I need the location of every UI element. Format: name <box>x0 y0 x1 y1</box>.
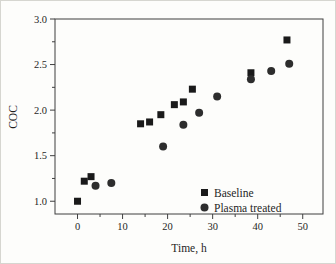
baseline-point <box>137 120 144 127</box>
plasma-treated-point <box>247 75 255 83</box>
chart-canvas: 010203040501.01.52.02.53.0 Time, h COC B… <box>1 1 336 264</box>
x-tick-label: 30 <box>207 221 218 232</box>
baseline-point <box>81 178 88 185</box>
baseline-point <box>283 36 290 43</box>
plasma-treated-point <box>213 92 221 100</box>
plasma-treated-point <box>195 109 203 117</box>
plot-area: 010203040501.01.52.02.53.0 <box>34 14 323 233</box>
legend-label-plasma-treated: Plasma treated <box>214 202 282 214</box>
x-tick-label: 10 <box>117 221 128 232</box>
baseline-point <box>74 198 81 205</box>
scatter-figure: 010203040501.01.52.02.53.0 Time, h COC B… <box>0 0 336 264</box>
baseline-point <box>180 98 187 105</box>
legend-marker-baseline-icon <box>201 189 208 196</box>
y-axis-title: COC <box>7 105 19 129</box>
baseline-point <box>189 86 196 93</box>
plasma-treated-point <box>159 143 167 151</box>
y-tick-label: 1.0 <box>34 196 47 207</box>
plasma-treated-point <box>92 182 100 190</box>
x-tick-label: 0 <box>75 221 80 232</box>
plasma-treated-point <box>267 67 275 75</box>
baseline-point <box>171 101 178 108</box>
x-axis-title: Time, h <box>171 242 207 255</box>
baseline-point <box>88 173 95 180</box>
legend: Baseline Plasma treated <box>201 187 282 214</box>
x-tick-label: 40 <box>252 221 263 232</box>
y-tick-label: 2.5 <box>34 59 47 70</box>
baseline-point <box>157 111 164 118</box>
x-tick-label: 50 <box>297 221 308 232</box>
plasma-treated-point <box>107 179 115 187</box>
y-tick-label: 2.0 <box>34 105 47 116</box>
y-tick-label: 1.5 <box>34 150 47 161</box>
y-tick-label: 3.0 <box>34 14 47 25</box>
legend-label-baseline: Baseline <box>214 187 254 199</box>
legend-marker-plasma-treated-icon <box>201 204 209 212</box>
plasma-treated-point <box>179 121 187 129</box>
plasma-treated-point <box>285 60 293 68</box>
baseline-point <box>146 118 153 125</box>
x-tick-label: 20 <box>162 221 173 232</box>
